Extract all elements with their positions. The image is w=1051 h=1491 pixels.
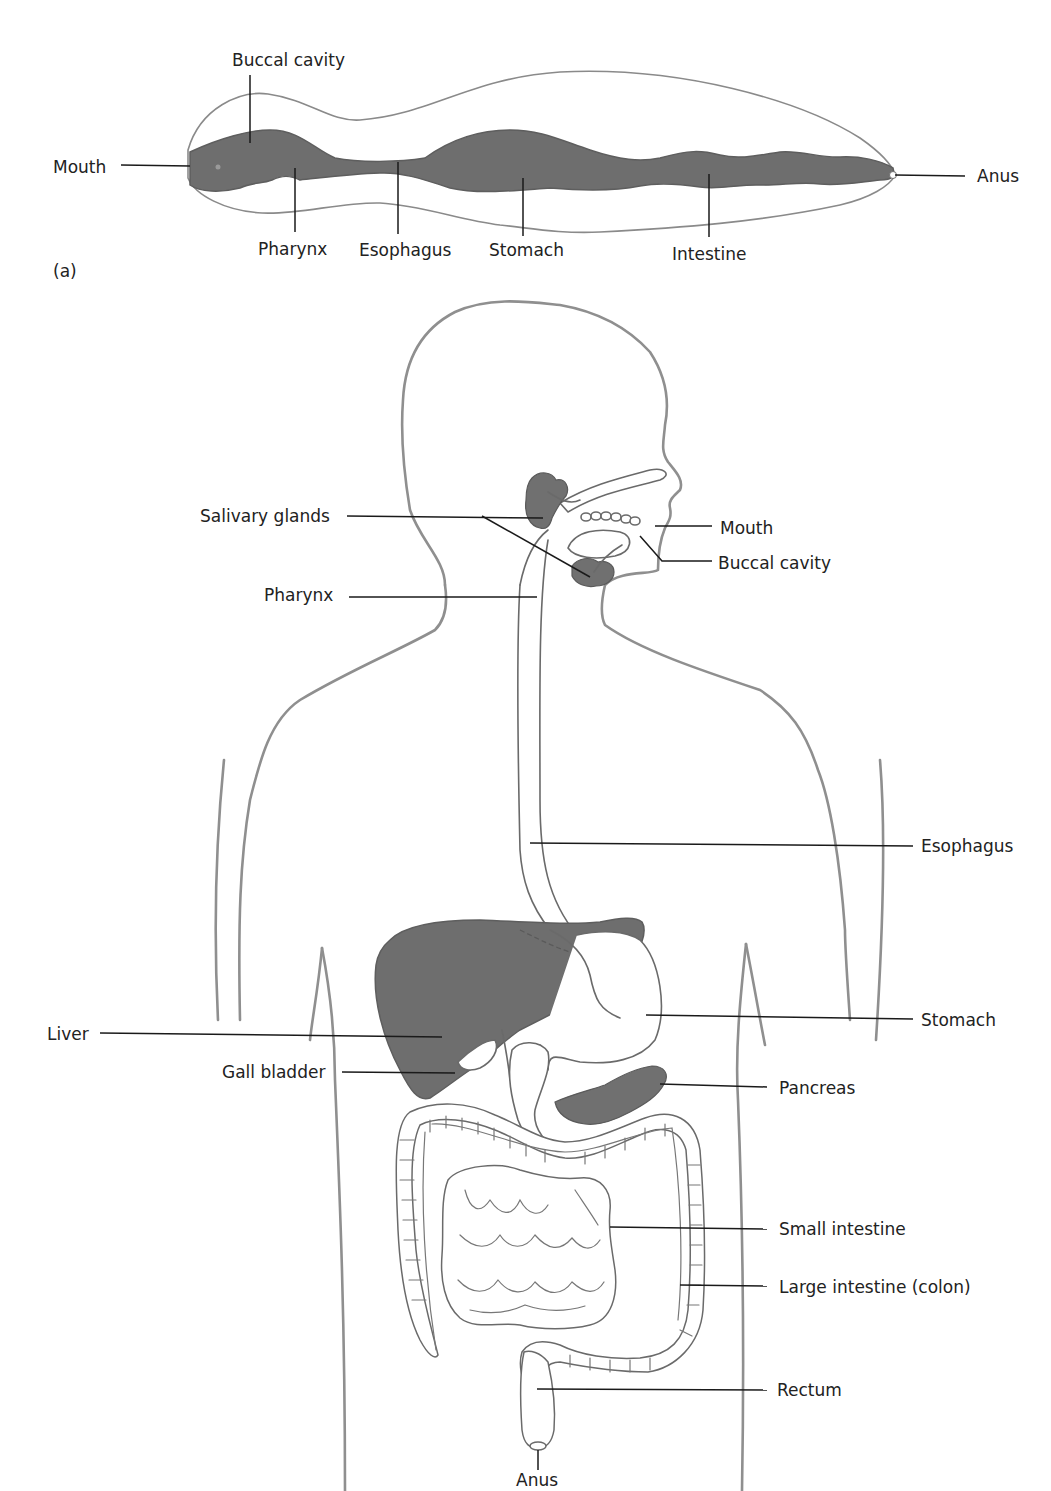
panel-b-human: Salivary glands Mouth Buccal cavity Phar… (47, 301, 1014, 1491)
label-mouth: Mouth (720, 518, 773, 538)
human-body-outline (402, 301, 850, 1020)
label-buccal-cavity: Buccal cavity (718, 553, 831, 573)
leader-worm-anus (895, 175, 965, 176)
pancreas (555, 1066, 666, 1124)
leader-pancreas (660, 1084, 767, 1087)
teeth (581, 512, 640, 525)
label-worm-esophagus: Esophagus (359, 240, 452, 260)
label-worm-intestine: Intestine (672, 244, 746, 264)
arm-left-inner (310, 948, 322, 1040)
tongue (568, 530, 630, 558)
leader-gall-bladder (342, 1072, 455, 1073)
label-worm-pharynx: Pharynx (258, 239, 327, 259)
anal-opening (530, 1442, 546, 1450)
leader-buccal-cavity (640, 536, 712, 561)
label-large-intestine: Large intestine (colon) (779, 1277, 971, 1297)
leader-worm-mouth (121, 165, 190, 166)
leader-small-intestine (610, 1227, 767, 1229)
label-pharynx: Pharynx (264, 585, 333, 605)
arm-left-outer (216, 760, 224, 1020)
label-pancreas: Pancreas (779, 1078, 856, 1098)
label-worm-anus: Anus (977, 166, 1019, 186)
salivary-gland-submandibular (572, 559, 614, 587)
salivary-gland-parotid (526, 473, 568, 529)
rectum (521, 1351, 555, 1448)
label-anus: Anus (516, 1470, 558, 1490)
leader-esophagus (530, 843, 913, 846)
esophagus-tube-left (518, 585, 550, 930)
leader-large-intestine (680, 1285, 767, 1286)
label-salivary-glands: Salivary glands (200, 506, 330, 526)
label-worm-mouth: Mouth (53, 157, 106, 177)
leader-stomach (646, 1015, 913, 1019)
digestive-system-diagram: Buccal cavity Mouth Pharynx Esophagus St… (0, 0, 1051, 1491)
label-small-intestine: Small intestine (779, 1219, 906, 1239)
panel-a-tag: (a) (53, 261, 77, 281)
leader-salivary-parotid (347, 516, 543, 518)
label-worm-buccal-cavity: Buccal cavity (232, 50, 345, 70)
leader-rectum (537, 1389, 767, 1390)
label-gall-bladder: Gall bladder (222, 1062, 325, 1082)
label-worm-stomach: Stomach (489, 240, 564, 260)
arm-right-inner (746, 944, 765, 1045)
panel-a-worm: Buccal cavity Mouth Pharynx Esophagus St… (53, 50, 1019, 281)
small-intestine (442, 1166, 616, 1329)
arm-right-outer (876, 760, 883, 1040)
torso-right-side (737, 944, 746, 1491)
nasal-palate (560, 469, 666, 512)
worm-speck (216, 165, 221, 170)
label-stomach: Stomach (921, 1010, 996, 1030)
label-liver: Liver (47, 1024, 89, 1044)
label-esophagus: Esophagus (921, 836, 1014, 856)
esophagus-tube-right (540, 540, 577, 935)
torso-left-side (322, 948, 345, 1491)
label-rectum: Rectum (777, 1380, 842, 1400)
